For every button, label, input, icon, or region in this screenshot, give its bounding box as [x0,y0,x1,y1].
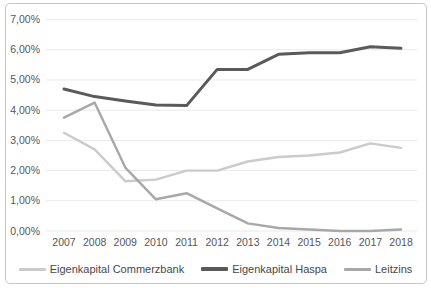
legend-swatch-leitzins [344,268,371,271]
y-axis-tick-label: 6,00% [10,43,40,55]
y-axis-tick-label: 2,00% [10,164,40,176]
y-axis-tick-label: 5,00% [10,73,40,85]
legend-item-eigenkapital-commerzbank: Eigenkapital Commerzbank [19,263,185,275]
y-axis-tick-label: 7,00% [10,13,40,25]
legend-label-commerzbank: Eigenkapital Commerzbank [50,263,185,275]
series-line-eigenkapital-haspa [64,47,401,106]
x-axis-tick-label: 2016 [328,236,352,248]
x-axis-tick-label: 2015 [297,236,321,248]
legend-label-leitzins: Leitzins [375,263,412,275]
legend-swatch-commerzbank [19,268,46,271]
line-chart-canvas: 0,00%1,00%2,00%3,00%4,00%5,00%6,00%7,00%… [0,0,431,288]
legend-item-eigenkapital-haspa: Eigenkapital Haspa [201,263,327,275]
chart-legend: Eigenkapital Commerzbank Eigenkapital Ha… [0,260,431,278]
y-axis-tick-label: 4,00% [10,104,40,116]
x-axis-tick-label: 2010 [144,236,168,248]
x-axis-tick-label: 2008 [83,236,107,248]
y-axis-tick-label: 1,00% [10,194,40,206]
x-axis-tick-label: 2007 [52,236,76,248]
x-axis: 2007200820092010201120122013201420152016… [52,236,413,248]
x-axis-tick-label: 2009 [114,236,138,248]
x-axis-tick-label: 2018 [389,236,413,248]
y-axis-tick-label: 3,00% [10,134,40,146]
legend-item-leitzins: Leitzins [344,263,412,275]
y-axis-tick-label: 0,00% [10,225,40,237]
x-axis-tick-label: 2011 [175,236,198,248]
y-axis: 0,00%1,00%2,00%3,00%4,00%5,00%6,00%7,00% [10,13,40,236]
x-axis-tick-label: 2013 [236,236,260,248]
x-axis-tick-label: 2014 [267,236,291,248]
x-axis-tick-label: 2012 [206,236,230,248]
gridlines [46,20,417,231]
x-axis-tick-label: 2017 [359,236,383,248]
legend-label-haspa: Eigenkapital Haspa [232,263,327,275]
legend-swatch-haspa [201,267,228,271]
